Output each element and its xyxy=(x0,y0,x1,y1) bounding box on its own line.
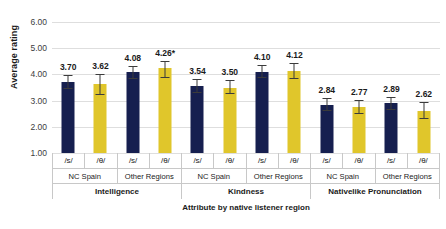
error-bar-stem xyxy=(197,79,198,93)
attribute-tick-label: Kindness xyxy=(181,184,310,199)
phoneme-tick-label: /θ/ xyxy=(84,153,116,169)
error-bar-cap-top xyxy=(128,66,137,67)
error-bar xyxy=(64,75,73,88)
error-bar-cap-bottom xyxy=(225,93,234,94)
bar-value-label: 2.89 xyxy=(383,84,400,94)
region-tick-label: Other Regions xyxy=(246,169,311,184)
error-bar-cap-bottom xyxy=(258,77,267,78)
error-bar-stem xyxy=(294,63,295,78)
x-axis-title: Attribute by native listener region xyxy=(52,203,440,212)
bar-value-label: 3.70 xyxy=(60,62,77,72)
error-bar-cap-bottom xyxy=(193,92,202,93)
region-tick-label: NC Spain xyxy=(52,169,117,184)
phoneme-tick-label: /θ/ xyxy=(149,153,181,169)
y-tick-label: 6.00 xyxy=(30,17,47,27)
y-tick-label: 5.00 xyxy=(30,43,47,53)
error-bar-cap-top xyxy=(322,98,331,99)
bar-group: 4.08 xyxy=(117,22,149,153)
attribute-tick-label: Nativelike Pronunciation xyxy=(310,184,440,199)
bar-group: 2.62 xyxy=(408,22,440,153)
y-tick-label: 1.00 xyxy=(30,148,47,158)
region-tick-label: NC Spain xyxy=(181,169,246,184)
y-axis-title: Average rating xyxy=(9,9,19,105)
axis-row-region: NC SpainOther RegionsNC SpainOther Regio… xyxy=(52,169,440,184)
bar xyxy=(223,88,236,154)
axis-row-phoneme: /s//θ//s//θ//s//θ//s//θ//s//θ//s//θ/ xyxy=(52,153,440,169)
y-tick-label: 3.00 xyxy=(30,96,47,106)
bar-group: 2.77 xyxy=(343,22,375,153)
bar-value-label: 2.77 xyxy=(351,87,368,97)
bar-value-label: 4.08 xyxy=(125,53,142,63)
plot-area: 6.005.004.003.002.001.003.703.624.084.26… xyxy=(52,22,440,153)
error-bar-stem xyxy=(423,102,424,119)
bar-group: 2.84 xyxy=(311,22,343,153)
bar-group: 3.62 xyxy=(84,22,116,153)
bar xyxy=(288,71,301,153)
bar xyxy=(126,72,139,153)
bar-value-label: 4.10 xyxy=(254,52,271,62)
error-bar-cap-bottom xyxy=(355,113,364,114)
error-bar-stem xyxy=(359,100,360,114)
bar xyxy=(256,72,269,153)
error-bar-cap-top xyxy=(355,100,364,101)
error-bar xyxy=(96,74,105,95)
bar-value-label: 3.50 xyxy=(222,67,239,77)
category-axis: /s//θ//s//θ//s//θ//s//θ//s//θ//s//θ/ NC … xyxy=(52,153,440,199)
phoneme-tick-label: /θ/ xyxy=(213,153,245,169)
error-bar xyxy=(322,98,331,111)
bar xyxy=(159,68,172,153)
phoneme-tick-label: /s/ xyxy=(181,153,213,169)
region-tick-label: NC Spain xyxy=(310,169,375,184)
region-tick-label: Other Regions xyxy=(375,169,441,184)
phoneme-tick-label: /θ/ xyxy=(278,153,310,169)
error-bar-cap-top xyxy=(96,74,105,75)
error-bar-cap-bottom xyxy=(290,78,299,79)
bar-chart: Average rating 6.005.004.003.002.001.003… xyxy=(0,0,446,229)
error-bar-cap-bottom xyxy=(387,109,396,110)
error-bar-cap-top xyxy=(193,79,202,80)
y-tick-label: 2.00 xyxy=(30,122,47,132)
bar-group: 4.26* xyxy=(149,22,181,153)
bar-group: 3.70 xyxy=(52,22,84,153)
error-bar xyxy=(161,61,170,78)
error-bar-cap-bottom xyxy=(419,118,428,119)
bar-value-label: 4.26* xyxy=(155,48,175,58)
error-bar xyxy=(355,100,364,114)
error-bar xyxy=(258,65,267,78)
error-bar-cap-top xyxy=(290,63,299,64)
error-bar-cap-top xyxy=(225,80,234,81)
error-bar-cap-top xyxy=(258,65,267,66)
phoneme-tick-label: /s/ xyxy=(310,153,342,169)
error-bar-cap-top xyxy=(387,97,396,98)
bar xyxy=(320,105,333,153)
error-bar-cap-bottom xyxy=(322,110,331,111)
bar xyxy=(62,82,75,153)
error-bar-cap-bottom xyxy=(64,88,73,89)
bar-group: 4.10 xyxy=(246,22,278,153)
phoneme-tick-label: /s/ xyxy=(117,153,149,169)
bar xyxy=(385,103,398,153)
phoneme-tick-label: /θ/ xyxy=(342,153,374,169)
phoneme-tick-label: /θ/ xyxy=(407,153,440,169)
phoneme-tick-label: /s/ xyxy=(375,153,407,169)
bar-group: 2.89 xyxy=(375,22,407,153)
bar-group: 3.50 xyxy=(214,22,246,153)
error-bar-stem xyxy=(165,61,166,78)
y-tick-label: 4.00 xyxy=(30,69,47,79)
bar-value-label: 4.12 xyxy=(286,50,303,60)
region-tick-label: Other Regions xyxy=(117,169,182,184)
bar xyxy=(191,86,204,153)
error-bar xyxy=(290,63,299,78)
error-bar xyxy=(128,66,137,79)
error-bar xyxy=(225,80,234,94)
error-bar-stem xyxy=(100,74,101,95)
error-bar-cap-bottom xyxy=(128,78,137,79)
attribute-tick-label: Intelligence xyxy=(52,184,181,199)
error-bar xyxy=(419,102,428,119)
bar-group: 3.54 xyxy=(181,22,213,153)
bar-value-label: 3.54 xyxy=(189,66,206,76)
error-bar-cap-top xyxy=(64,75,73,76)
error-bar-cap-bottom xyxy=(96,94,105,95)
bar-value-label: 2.84 xyxy=(319,85,336,95)
error-bar-stem xyxy=(391,97,392,111)
